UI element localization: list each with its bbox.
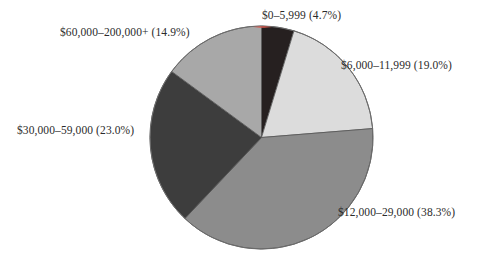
pie-label-4: $60,000–200,000+ (14.9%) <box>60 26 190 39</box>
pie-chart-figure: $0–5,999 (4.7%) $6,000–11,999 (19.0%) $1… <box>0 0 487 257</box>
pie-label-3: $30,000–59,000 (23.0%) <box>17 124 134 137</box>
pie-label-1: $6,000–11,999 (19.0%) <box>341 59 452 72</box>
pie-label-0: $0–5,999 (4.7%) <box>262 9 341 22</box>
pie-label-2: $12,000–29,000 (38.3%) <box>338 206 455 219</box>
